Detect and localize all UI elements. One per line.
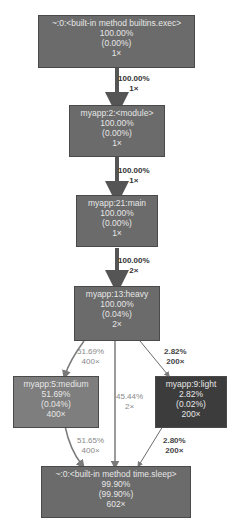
- node-name: myapp:21:main: [77, 198, 157, 208]
- node-calls: 2×: [75, 319, 159, 329]
- node-total: 100.00%: [77, 208, 157, 218]
- node-calls: 200×: [156, 409, 226, 419]
- node-self: (0.00%): [77, 218, 157, 228]
- node-name: myapp:5:medium: [14, 379, 98, 389]
- node-self: (99.90%): [42, 489, 190, 499]
- edge-label-heavy-medium: 51.69% 400×: [77, 347, 104, 367]
- edge-label-main-heavy: 100.00% 2×: [118, 256, 150, 276]
- node-total: 99.90%: [42, 479, 190, 489]
- node-total: 100.00%: [70, 118, 164, 128]
- node-main[interactable]: myapp:21:main 100.00% (0.00%) 1×: [76, 195, 158, 247]
- node-name: ~:0:<built-in method builtins.exec>: [39, 18, 194, 28]
- node-self: (0.02%): [156, 399, 226, 409]
- node-calls: 602×: [42, 499, 190, 509]
- edge-light-sleep: [139, 426, 163, 465]
- edge-label-heavy-light: 2.82% 200×: [164, 347, 187, 367]
- call-graph: ~:0:<built-in method builtins.exec> 100.…: [0, 0, 240, 531]
- node-name: myapp:13:heavy: [75, 289, 159, 299]
- node-light[interactable]: myapp:9:light 2.82% (0.02%) 200×: [155, 376, 227, 428]
- edge-label-light-sleep: 2.80% 200×: [163, 436, 186, 456]
- node-builtins-exec[interactable]: ~:0:<built-in method builtins.exec> 100.…: [38, 15, 195, 68]
- node-name: ~:0:<built-in method time.sleep>: [42, 469, 190, 479]
- node-total: 100.00%: [75, 299, 159, 309]
- node-calls: 1×: [39, 48, 194, 58]
- node-calls: 400×: [14, 409, 98, 419]
- node-self: (0.04%): [75, 309, 159, 319]
- edge-label-medium-sleep: 51.65% 400×: [77, 436, 104, 456]
- node-total: 51.69%: [14, 389, 98, 399]
- node-self: (0.00%): [39, 38, 194, 48]
- node-self: (0.04%): [14, 399, 98, 409]
- node-total: 2.82%: [156, 389, 226, 399]
- node-calls: 1×: [70, 138, 164, 148]
- node-total: 100.00%: [39, 28, 194, 38]
- node-time-sleep[interactable]: ~:0:<built-in method time.sleep> 99.90% …: [41, 466, 191, 518]
- node-self: (0.00%): [70, 128, 164, 138]
- node-calls: 1×: [77, 228, 157, 238]
- node-heavy[interactable]: myapp:13:heavy 100.00% (0.04%) 2×: [74, 286, 160, 341]
- node-medium[interactable]: myapp:5:medium 51.69% (0.04%) 400×: [13, 376, 99, 428]
- node-module[interactable]: myapp:2:<module> 100.00% (0.00%) 1×: [69, 105, 165, 157]
- edge-label-module-main: 100.00% 1×: [118, 166, 150, 186]
- node-name: myapp:9:light: [156, 379, 226, 389]
- edge-label-heavy-sleep: 45.44% 2×: [116, 392, 143, 412]
- node-name: myapp:2:<module>: [70, 108, 164, 118]
- edge-label-exec-module: 100.00% 1×: [118, 74, 150, 94]
